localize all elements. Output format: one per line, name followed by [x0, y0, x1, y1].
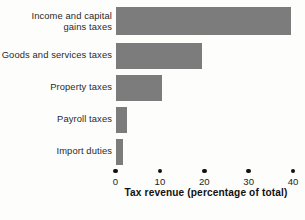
bar-payroll-taxes	[116, 107, 127, 133]
category-label-property-taxes: Property taxes	[0, 81, 112, 92]
axis-tick-dot-40	[291, 169, 296, 174]
category-label-import-duties: Import duties	[0, 145, 112, 156]
axis-tick-label-40: 40	[278, 176, 305, 187]
scan-bleed-artifact	[8, 207, 98, 215]
bar-income-and-capital-gains-taxes	[116, 7, 291, 35]
x-axis-title: Tax revenue (percentage of total)	[116, 187, 296, 198]
axis-tick-label-10: 10	[145, 176, 175, 187]
horizontal-bar-chart: Income and capital gains taxes Goods and…	[0, 0, 305, 220]
axis-tick-label-0: 0	[101, 176, 131, 187]
bar-import-duties	[116, 139, 123, 165]
category-label-goods-and-services-taxes: Goods and services taxes	[0, 49, 112, 60]
axis-tick-label-30: 30	[234, 176, 264, 187]
bar-property-taxes	[116, 75, 162, 101]
bar-goods-and-services-taxes	[116, 43, 202, 69]
axis-tick-label-20: 20	[189, 176, 219, 187]
axis-tick-dot-20	[202, 169, 207, 174]
axis-tick-dot-0	[113, 169, 118, 174]
category-label-payroll-taxes: Payroll taxes	[0, 113, 112, 124]
axis-tick-dot-10	[158, 169, 163, 174]
category-label-income-and-capital-gains-taxes: Income and capital gains taxes	[0, 10, 112, 33]
axis-tick-dot-30	[246, 169, 251, 174]
